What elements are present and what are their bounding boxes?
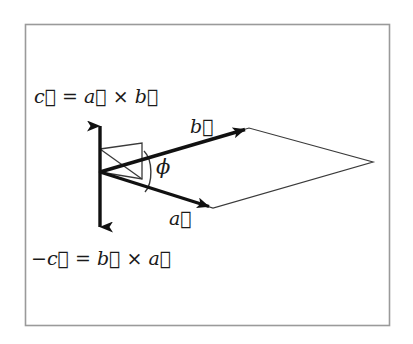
diagram-canvas [0,0,413,344]
figure-border [26,25,390,326]
label-vector-a: a⃗ [169,209,192,228]
label-c-equals-a-cross-b: c⃗ = a⃗ × b⃗ [34,87,158,106]
label-vector-b: b⃗ [190,117,214,136]
cross-product-figure: c⃗ = a⃗ × b⃗ −c⃗ = b⃗ × a⃗ b⃗ a⃗ ϕ [0,0,413,344]
label-minus-c-equals-b-cross-a: −c⃗ = b⃗ × a⃗ [31,249,171,268]
label-angle-phi: ϕ [156,157,170,178]
